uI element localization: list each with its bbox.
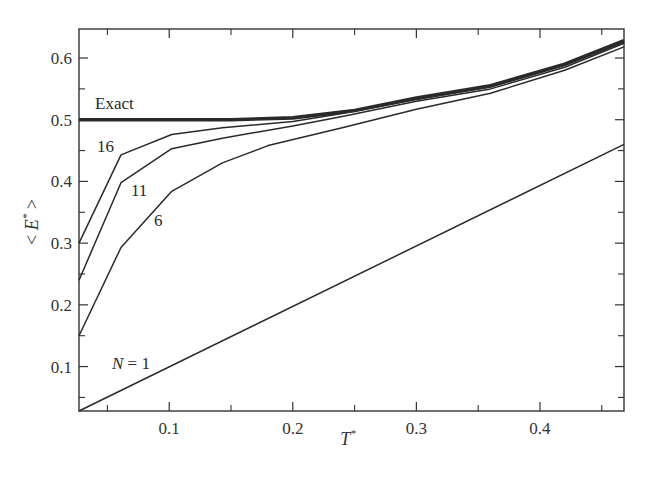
curve-labels: Exact16116N = 1 (95, 94, 163, 373)
curve-label-6: 6 (154, 211, 163, 230)
curve-label-11: 11 (131, 181, 147, 200)
x-tick-label: 0.2 (282, 419, 303, 438)
series-n-1 (79, 144, 624, 411)
y-tick-label: 0.2 (51, 296, 72, 315)
axis-ticks: 0.10.20.30.40.10.20.30.40.50.6 (51, 29, 624, 438)
series-n-11 (79, 43, 624, 280)
y-tick-label: 0.5 (51, 111, 72, 130)
curve-label-exact: Exact (95, 94, 134, 113)
x-axis-title: T* (340, 427, 356, 449)
y-tick-label: 0.3 (51, 234, 72, 253)
x-tick-label: 0.3 (406, 419, 427, 438)
x-tick-label: 0.1 (159, 419, 180, 438)
y-tick-label: 0.4 (51, 172, 73, 191)
series-n-6 (79, 47, 624, 336)
curve-label-16: 16 (97, 137, 114, 156)
curve-label-n-1: N = 1 (111, 354, 150, 373)
x-tick-label: 0.4 (529, 419, 551, 438)
y-tick-label: 0.1 (51, 358, 72, 377)
series-exact (79, 41, 624, 120)
line-chart: 0.10.20.30.40.10.20.30.40.50.6 Exact1611… (0, 0, 645, 478)
y-axis-title: < E* > (20, 199, 42, 245)
y-tick-label: 0.6 (51, 49, 72, 68)
